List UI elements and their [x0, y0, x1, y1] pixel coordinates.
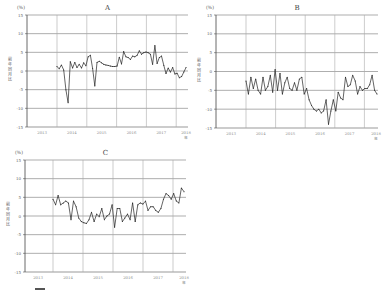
data-point [166, 193, 167, 194]
series-line [57, 46, 186, 103]
y-tick-label: 0 [209, 69, 212, 74]
data-point [170, 72, 171, 73]
data-point [63, 202, 64, 203]
data-point [367, 88, 368, 89]
y-tick-label: -15 [17, 125, 24, 130]
data-point [172, 67, 173, 68]
data-point [140, 202, 141, 203]
data-point [148, 52, 149, 53]
data-point [152, 64, 153, 65]
x-tick-label: 2016 [315, 131, 325, 136]
data-point [306, 88, 307, 89]
chart-b-svg: B(%)151050-5-10-152013201420152016201720… [192, 0, 385, 140]
data-point [74, 62, 75, 63]
y-tick-label: -15 [15, 270, 22, 275]
y-axis-label: 比 [6, 221, 10, 227]
series-line [53, 188, 184, 227]
data-point [311, 105, 312, 106]
x-tick-label: 2017 [345, 131, 355, 136]
data-point [316, 111, 317, 112]
data-point [119, 57, 120, 58]
data-point [357, 94, 358, 95]
data-point [134, 56, 135, 57]
x-tick-label: 2014 [256, 131, 266, 136]
data-point [163, 199, 164, 200]
y-axis-label: 比 [197, 77, 201, 83]
data-point [338, 92, 339, 93]
data-point [250, 77, 251, 78]
data-point [53, 199, 54, 200]
data-point [132, 202, 133, 203]
data-point [72, 68, 73, 69]
data-point [83, 222, 84, 223]
data-point [168, 68, 169, 69]
data-point [284, 82, 285, 83]
data-point [71, 219, 72, 220]
data-point [176, 201, 177, 202]
y-tick-label: 10 [207, 31, 213, 36]
data-point [101, 62, 102, 63]
y-tick-label: 15 [16, 158, 22, 163]
data-point [347, 86, 348, 87]
data-point [159, 57, 160, 58]
data-point [178, 202, 179, 203]
data-point [145, 201, 146, 202]
data-point [114, 66, 115, 67]
data-point [94, 221, 95, 222]
y-tick-label: 10 [18, 31, 24, 36]
y-tick-label: -5 [17, 232, 21, 237]
data-point [150, 206, 151, 207]
x-axis-unit: 年 [184, 135, 188, 140]
data-point [92, 68, 93, 69]
data-point [117, 208, 118, 209]
data-point [313, 109, 314, 110]
data-point [96, 214, 97, 215]
y-tick-label: -10 [17, 106, 24, 111]
data-point [166, 73, 167, 74]
x-tick-label: 2013 [37, 130, 47, 135]
data-point [253, 88, 254, 89]
data-point [106, 216, 107, 217]
chart-b: B(%)151050-5-10-152013201420152016201720… [192, 0, 385, 140]
chart-title: C [103, 149, 108, 157]
data-point [142, 204, 143, 205]
data-point [377, 94, 378, 95]
data-point [65, 201, 66, 202]
data-point [296, 90, 297, 91]
data-point [294, 82, 295, 83]
legend-swatch [35, 288, 45, 290]
data-point [272, 92, 273, 93]
x-tick-label: 2014 [67, 130, 77, 135]
data-point [86, 223, 87, 224]
unit-label: (%) [206, 5, 214, 10]
data-point [160, 208, 161, 209]
data-point [68, 102, 69, 103]
data-point [275, 69, 276, 70]
data-point [340, 97, 341, 98]
x-tick-label: 2017 [153, 275, 163, 280]
data-point [161, 56, 162, 57]
data-point [163, 65, 164, 66]
data-point [292, 90, 293, 91]
data-point [277, 90, 278, 91]
y-tick-label: 15 [207, 13, 213, 18]
data-point [59, 68, 60, 69]
data-point [94, 85, 95, 86]
x-axis-unit: 年 [182, 280, 186, 285]
data-point [99, 216, 100, 217]
data-point [77, 67, 78, 68]
data-point [321, 112, 322, 113]
data-point [63, 69, 64, 70]
data-point [57, 66, 58, 67]
series-line [246, 70, 377, 125]
data-point [105, 65, 106, 66]
y-tick-label: 0 [18, 214, 21, 219]
y-tick-label: 10 [16, 176, 22, 181]
data-point [267, 86, 268, 87]
x-tick-label: 2016 [123, 275, 133, 280]
data-point [157, 63, 158, 64]
data-point [89, 219, 90, 220]
data-point [55, 204, 56, 205]
data-point [299, 79, 300, 80]
data-point [343, 99, 344, 100]
